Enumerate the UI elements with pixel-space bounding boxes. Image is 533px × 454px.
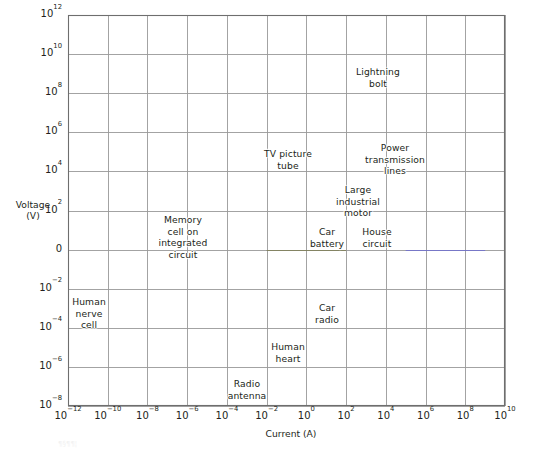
chart-annotation-label: House circuit xyxy=(342,226,412,249)
y-axis-tick-label: 10−8 xyxy=(18,399,62,410)
chart-annotation-label: Large industrial motor xyxy=(323,184,393,219)
x-axis-tick-label: 1010 xyxy=(475,410,533,421)
chart-annotation-label: Memory cell on integrated circuit xyxy=(148,214,218,260)
chart-annotation-label: Lightning bolt xyxy=(343,66,413,89)
y-axis-tick-label: 108 xyxy=(18,86,62,97)
chart-annotation-label: TV picture tube xyxy=(253,148,323,171)
chart-annotation-label: Human nerve cell xyxy=(54,296,124,331)
chart-annotation-label: Power transmission lines xyxy=(360,142,430,177)
chart-annotation-label: Human heart xyxy=(253,341,323,364)
chart-annotation-label: Radio antenna xyxy=(212,378,282,401)
y-axis-tick-label: 1012 xyxy=(18,8,62,19)
y-axis-tick-label: 10−2 xyxy=(18,282,62,293)
y-axis-tick-label: 1010 xyxy=(18,47,62,58)
y-axis-tick-label: 10−6 xyxy=(18,360,62,371)
y-axis-tick-label: 0 xyxy=(18,243,62,254)
y-axis-tick-label: 104 xyxy=(18,164,62,175)
y-axis-tick-label: 102 xyxy=(18,204,62,215)
x-axis-title: Current (A) xyxy=(236,428,346,439)
figure-footnote: ¶§¶¶¦ xyxy=(58,440,77,448)
y-axis-tick-label: 106 xyxy=(18,125,62,136)
chart-figure: Voltage (V) Current (A) 10−1210−1010−810… xyxy=(0,0,533,454)
chart-annotation-label: Car radio xyxy=(292,302,362,325)
